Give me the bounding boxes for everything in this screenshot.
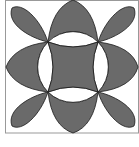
center-fill — [48, 42, 98, 92]
geometric-pattern-figure — [0, 0, 139, 147]
